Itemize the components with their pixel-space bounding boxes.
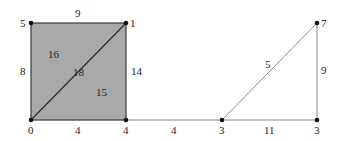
node-3a bbox=[220, 118, 225, 123]
node-label-3a: 3 bbox=[219, 124, 225, 136]
edge-label-3-7-vertical: 9 bbox=[321, 64, 327, 76]
edge-label-4-3: 4 bbox=[171, 124, 177, 136]
node-label-0: 0 bbox=[28, 124, 34, 136]
node-0 bbox=[29, 118, 34, 123]
node-3b bbox=[315, 118, 320, 123]
edge-3-7 bbox=[222, 23, 317, 120]
edge-label-3-7: 5 bbox=[265, 58, 271, 70]
edge-label-0-1: 18 bbox=[73, 66, 85, 78]
node-label-4: 4 bbox=[123, 124, 129, 136]
edge-label-0-4: 4 bbox=[75, 124, 81, 136]
node-label-1: 1 bbox=[130, 17, 136, 29]
face-label-lower: 15 bbox=[96, 86, 108, 98]
edge-label-5-0: 8 bbox=[20, 65, 26, 77]
edge-label-3-3: 11 bbox=[264, 124, 275, 136]
node-5 bbox=[29, 21, 34, 26]
face-label-upper: 16 bbox=[48, 48, 60, 60]
node-label-7: 7 bbox=[321, 17, 327, 29]
graph-diagram: 5 1 0 4 3 3 7 9 8 14 4 18 4 11 5 9 16 15 bbox=[0, 0, 344, 141]
node-7 bbox=[315, 21, 320, 26]
node-label-5: 5 bbox=[20, 17, 26, 29]
node-4 bbox=[124, 118, 129, 123]
node-label-3b: 3 bbox=[314, 124, 320, 136]
node-1 bbox=[124, 21, 129, 26]
edge-label-1-4: 14 bbox=[131, 65, 143, 77]
edge-label-5-1: 9 bbox=[75, 7, 81, 19]
